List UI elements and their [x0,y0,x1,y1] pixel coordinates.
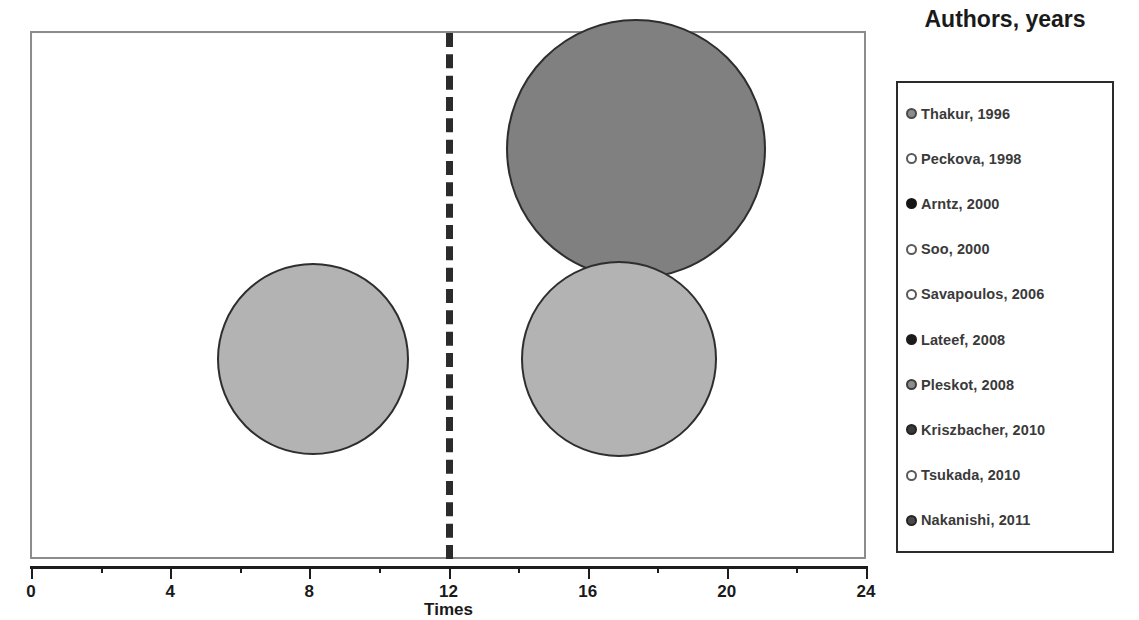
x-tick-label-8: 8 [305,582,314,602]
x-tick-major-12 [449,566,451,579]
legend-marker-circle-icon [906,334,917,345]
legend-marker-circle-icon [906,198,917,209]
legend-item-label: Peckova, 1998 [921,151,1021,167]
legend-item[interactable]: Tsukada, 2010 [898,454,1112,496]
legend-box: Thakur, 1996Peckova, 1998Arntz, 2000Soo,… [896,81,1114,553]
bubble-left [217,263,409,455]
legend-marker-circle-icon [906,244,917,255]
legend-marker-circle-icon [906,289,917,300]
legend-item[interactable]: Thakur, 1996 [898,93,1112,135]
x-tick-major-20 [727,566,729,579]
legend-item-label: Tsukada, 2010 [921,467,1020,483]
legend-marker-circle-icon [906,153,917,164]
legend-item[interactable]: Arntz, 2000 [898,183,1112,225]
legend-item-label: Kriszbacher, 2010 [921,422,1045,438]
legend-marker-circle-icon [906,424,917,435]
legend-item[interactable]: Pleskot, 2008 [898,364,1112,406]
x-tick-label-20: 20 [717,582,736,602]
legend-item[interactable]: Nakanishi, 2011 [898,499,1112,541]
legend-marker-circle-icon [906,108,917,119]
x-axis-title: Times [0,600,897,620]
legend-item[interactable]: Kriszbacher, 2010 [898,409,1112,451]
x-tick-minor-10 [379,566,381,573]
legend-item-label: Nakanishi, 2011 [921,512,1031,528]
x-tick-label-0: 0 [26,582,35,602]
legend-item[interactable]: Savapoulos, 2006 [898,273,1112,315]
x-tick-minor-6 [240,566,242,573]
legend-item-label: Savapoulos, 2006 [921,286,1044,302]
legend-item-label: Soo, 2000 [921,241,990,257]
legend-title: Authors, years [896,6,1114,33]
x-tick-label-12: 12 [439,582,458,602]
x-tick-major-0 [31,566,33,579]
x-tick-label-16: 16 [578,582,597,602]
legend-item[interactable]: Peckova, 1998 [898,138,1112,180]
x-tick-label-4: 4 [165,582,174,602]
x-tick-major-4 [170,566,172,579]
x-tick-label-24: 24 [857,582,876,602]
x-tick-minor-2 [101,566,103,573]
bubble-top-right [506,19,766,279]
bubble-chart-figure: Sudden cardiac death or cardiac arrest i… [0,0,1139,620]
x-tick-major-16 [588,566,590,579]
reference-line-12 [446,33,453,559]
x-tick-minor-14 [518,566,520,573]
legend-marker-circle-icon [906,379,917,390]
legend-item-label: Arntz, 2000 [921,196,999,212]
legend-item-label: Pleskot, 2008 [921,377,1014,393]
legend-item-label: Thakur, 1996 [921,106,1010,122]
x-tick-minor-22 [796,566,798,573]
bubble-bottom-right [521,261,717,457]
x-tick-major-8 [309,566,311,579]
legend-item-label: Lateef, 2008 [921,332,1005,348]
legend-item[interactable]: Soo, 2000 [898,228,1112,270]
legend-marker-circle-icon [906,470,917,481]
legend-item-list: Thakur, 1996Peckova, 1998Arntz, 2000Soo,… [898,83,1112,551]
x-tick-minor-18 [657,566,659,573]
x-tick-major-24 [866,566,868,579]
legend-marker-circle-icon [906,515,917,526]
legend-item[interactable]: Lateef, 2008 [898,319,1112,361]
